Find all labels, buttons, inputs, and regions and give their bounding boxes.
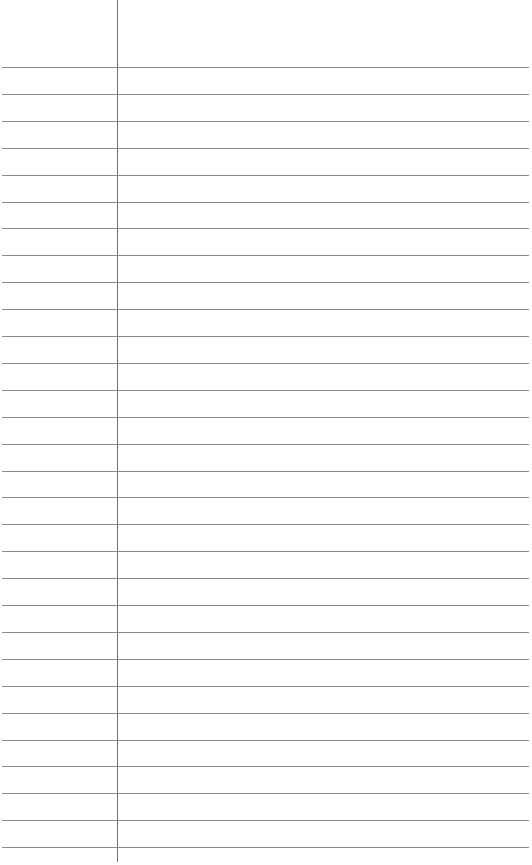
ruled-line bbox=[2, 282, 529, 283]
ruled-line bbox=[2, 417, 529, 418]
lined-paper-page bbox=[0, 0, 532, 865]
ruled-line bbox=[2, 202, 529, 203]
ruled-line bbox=[2, 471, 529, 472]
ruled-line bbox=[2, 390, 529, 391]
ruled-line bbox=[2, 148, 529, 149]
ruled-line bbox=[2, 578, 529, 579]
ruled-line bbox=[2, 363, 529, 364]
ruled-line bbox=[2, 67, 529, 68]
ruled-line bbox=[2, 820, 529, 821]
ruled-line bbox=[2, 444, 529, 445]
ruled-line bbox=[2, 497, 529, 498]
ruled-line bbox=[2, 255, 529, 256]
ruled-line bbox=[2, 766, 529, 767]
ruled-line bbox=[2, 686, 529, 687]
ruled-line bbox=[2, 551, 529, 552]
ruled-line bbox=[2, 740, 529, 741]
ruled-line bbox=[2, 632, 529, 633]
ruled-line bbox=[2, 713, 529, 714]
ruled-line bbox=[2, 94, 529, 95]
ruled-line bbox=[2, 121, 529, 122]
vertical-margin-line bbox=[117, 0, 118, 862]
ruled-line bbox=[2, 605, 529, 606]
ruled-line bbox=[2, 524, 529, 525]
ruled-line bbox=[2, 847, 529, 848]
ruled-line bbox=[2, 175, 529, 176]
ruled-line bbox=[2, 309, 529, 310]
ruled-line bbox=[2, 336, 529, 337]
ruled-line bbox=[2, 793, 529, 794]
ruled-line bbox=[2, 659, 529, 660]
ruled-line bbox=[2, 228, 529, 229]
